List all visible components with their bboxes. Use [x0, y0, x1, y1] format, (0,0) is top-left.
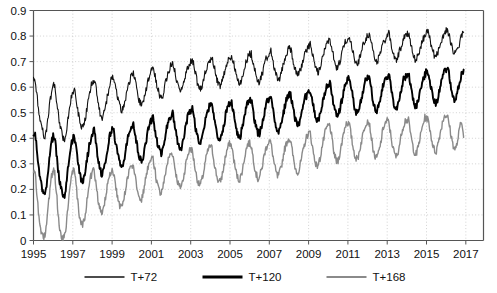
y-tick-label: 0.5	[11, 107, 27, 119]
y-tick-label: 0.7	[11, 56, 27, 68]
chart-container: 00.10.20.30.40.50.60.70.80.9 19951997199…	[0, 0, 497, 293]
data-series-group	[34, 28, 464, 241]
x-tick-label: 2011	[336, 248, 361, 260]
x-tick-label: 2003	[178, 248, 204, 260]
y-tick-label: 0.1	[11, 209, 27, 221]
series-line-Tplus168	[34, 114, 464, 240]
x-tick-label: 2005	[217, 248, 243, 260]
x-tick-label: 2007	[257, 248, 283, 260]
grid-lines	[34, 11, 484, 241]
x-tick-label: 2017	[453, 248, 479, 260]
y-tick-label: 0.8	[11, 30, 27, 42]
plot-frame	[34, 11, 484, 241]
y-tick-label: 0.3	[11, 158, 27, 170]
x-axis-ticks: 1995199719992001200320052007200920112013…	[21, 241, 479, 260]
x-tick-label: 1997	[60, 248, 86, 260]
y-tick-label: 0.9	[11, 5, 27, 17]
x-tick-label: 2013	[374, 248, 400, 260]
legend-label-Tplus120: T+120	[249, 271, 282, 283]
x-tick-label: 1995	[21, 248, 47, 260]
y-tick-label: 0.4	[11, 132, 28, 144]
legend-label-Tplus168: T+168	[373, 271, 406, 283]
y-tick-label: 0.2	[11, 183, 27, 195]
y-axis-ticks: 00.10.20.30.40.50.60.70.80.9	[11, 5, 34, 247]
x-tick-label: 1999	[99, 248, 125, 260]
line-chart: 00.10.20.30.40.50.60.70.80.9 19951997199…	[0, 0, 497, 293]
chart-legend: T+72T+120T+168	[85, 271, 406, 283]
x-tick-label: 2009	[296, 248, 322, 260]
legend-label-Tplus72: T+72	[131, 271, 158, 283]
series-line-Tplus72	[34, 28, 464, 142]
y-tick-label: 0	[20, 235, 26, 247]
x-tick-label: 2015	[414, 248, 440, 260]
y-tick-label: 0.6	[11, 81, 27, 93]
x-tick-label: 2001	[139, 248, 165, 260]
